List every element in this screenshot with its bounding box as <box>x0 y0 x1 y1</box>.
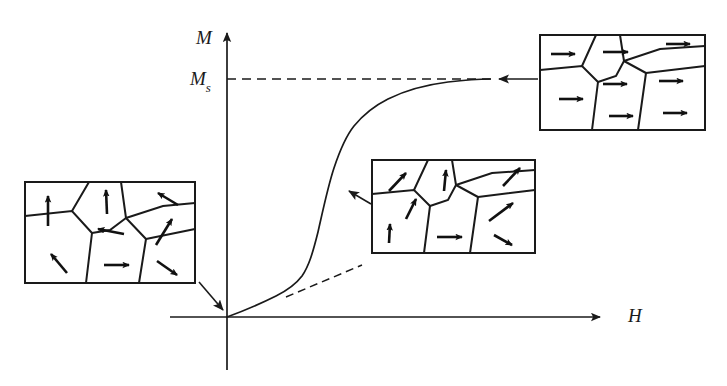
x-axis-label: H <box>628 306 642 325</box>
domain-arrow-up <box>389 224 390 243</box>
leader-line-demagnetized <box>199 282 223 310</box>
leader-line-partial <box>349 191 371 204</box>
saturation-label-base: M <box>190 68 206 89</box>
y-axis-label: M <box>196 28 212 47</box>
domain-inset-demagnetized <box>25 182 195 283</box>
saturation-magnetization-label: Ms <box>190 69 211 92</box>
domain-inset-partial <box>372 160 535 253</box>
domain-arrow-up <box>106 190 107 214</box>
magnetization-curve-figure <box>0 0 727 386</box>
figure-canvas: M Ms H <box>0 0 727 386</box>
domain-inset-saturated <box>540 35 705 130</box>
saturation-label-subscript: s <box>206 80 211 95</box>
